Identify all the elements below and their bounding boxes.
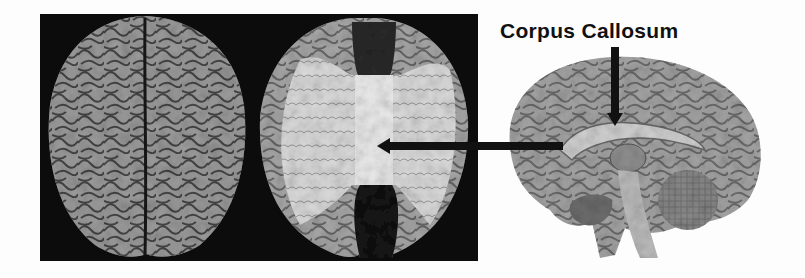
pointer-arrows	[0, 0, 805, 278]
arrow-horizontal	[377, 138, 563, 154]
figure: Corpus Callosum	[0, 0, 805, 278]
arrow-vertical	[607, 47, 623, 126]
